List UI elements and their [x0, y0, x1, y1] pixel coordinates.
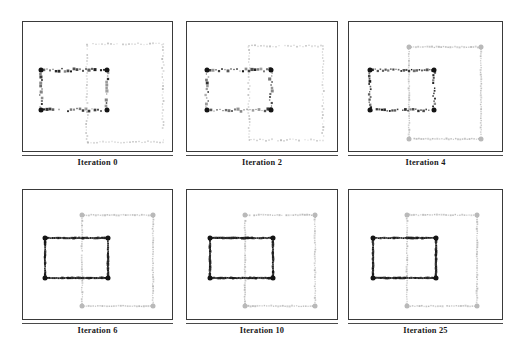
contour-point: [446, 305, 448, 307]
contour-point: [82, 294, 83, 295]
contour-point: [369, 80, 372, 83]
contour-point: [106, 305, 108, 307]
contour-point: [162, 106, 163, 107]
contour-point: [249, 118, 251, 120]
contour-point: [217, 237, 219, 239]
contour-point: [265, 214, 266, 215]
contour-point: [467, 305, 469, 307]
contour-point: [206, 82, 209, 85]
contour-point: [263, 70, 265, 72]
contour-point: [406, 266, 408, 268]
contour-point: [446, 138, 448, 140]
contour-point: [408, 129, 410, 131]
contour-point: [250, 139, 251, 140]
contour-point: [394, 109, 396, 111]
contour-point: [138, 141, 139, 142]
contour-point: [81, 248, 82, 249]
contour-point: [92, 237, 94, 239]
contour-point: [415, 46, 417, 48]
contour-point: [461, 46, 463, 48]
contour-point: [403, 69, 406, 72]
contour-point: [477, 270, 478, 271]
contour-point: [426, 306, 428, 308]
contour-point: [257, 277, 259, 279]
contour-point: [314, 221, 315, 222]
contour-point: [113, 44, 114, 45]
contour-corner-node: [106, 236, 111, 241]
contour-point: [376, 237, 378, 239]
contour-point: [82, 109, 84, 111]
contour-point: [456, 46, 458, 48]
contour-point: [429, 237, 431, 239]
contour-point: [408, 60, 410, 62]
contour-point: [450, 138, 452, 140]
contour-point: [481, 106, 483, 108]
contour-point: [416, 277, 418, 279]
contour-point: [314, 240, 315, 241]
contour-point: [296, 46, 298, 48]
contour-point: [81, 227, 82, 228]
contour-point: [272, 273, 274, 275]
contour-point: [266, 46, 268, 48]
light-contour: [247, 44, 324, 141]
contour-point: [408, 104, 410, 106]
contour-point: [372, 248, 374, 250]
contour-point: [99, 141, 100, 142]
contour-point: [292, 214, 294, 216]
contour-corner-node: [151, 304, 156, 309]
contour-point: [162, 82, 163, 83]
contour-point: [480, 97, 482, 99]
contour-point: [322, 117, 323, 118]
contour-point: [129, 305, 131, 307]
contour-point: [152, 262, 154, 264]
contour-point: [240, 110, 243, 113]
contour-point: [248, 70, 251, 73]
contour-point: [431, 237, 433, 239]
contour-point: [470, 46, 472, 48]
contour-point: [433, 93, 435, 95]
contour-point: [86, 72, 88, 74]
contour-corner-node: [407, 137, 412, 142]
contour-point: [380, 68, 382, 70]
contour-corner-node: [405, 304, 410, 309]
contour-point: [306, 214, 308, 216]
contour-point: [44, 250, 46, 252]
contour-point: [322, 72, 323, 73]
contour-point: [245, 234, 247, 236]
contour-point: [120, 142, 122, 144]
panel-iteration-6-caption: Iteration 6: [22, 326, 173, 335]
contour-point: [277, 140, 279, 142]
contour-point: [95, 306, 96, 307]
contour-point: [270, 84, 271, 85]
contour-point: [476, 244, 478, 246]
contour-point: [421, 70, 423, 72]
contour-point: [391, 109, 393, 111]
contour-point: [271, 102, 273, 104]
contour-point: [406, 234, 407, 235]
contour-point: [49, 108, 52, 111]
contour-point: [81, 289, 82, 290]
contour-point: [279, 214, 281, 216]
light-contour: [80, 213, 156, 309]
contour-point: [406, 252, 407, 253]
contour-point: [245, 280, 247, 282]
contour-point: [97, 109, 99, 111]
contour-point: [270, 214, 271, 215]
contour-point: [458, 305, 460, 307]
contour-point: [408, 87, 410, 89]
contour-point: [81, 225, 83, 227]
contour-point: [428, 306, 429, 307]
contour-point: [322, 123, 323, 124]
contour-point: [257, 68, 260, 71]
contour-point: [476, 242, 478, 244]
contour-point: [152, 299, 154, 301]
contour-point: [377, 70, 379, 72]
contour-point: [79, 108, 82, 111]
contour-point: [81, 298, 83, 300]
contour-point: [210, 109, 213, 112]
contour-point: [87, 81, 88, 82]
contour-point: [54, 237, 56, 239]
contour-point: [248, 58, 250, 60]
contour-point: [476, 260, 478, 262]
contour-point: [79, 68, 81, 70]
